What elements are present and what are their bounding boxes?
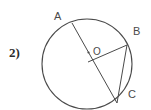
circle-geometry-diagram: O A B C	[0, 0, 151, 110]
vertex-label-b: B	[133, 25, 140, 37]
vertex-label-c: C	[128, 88, 136, 100]
chord-b-c	[117, 45, 127, 103]
vertex-label-a: A	[54, 10, 62, 22]
center-point-dot	[87, 51, 89, 53]
center-label-o: O	[93, 46, 101, 57]
geometry-figure-container: 2) O A B C	[0, 0, 151, 110]
chord-a-c	[72, 23, 117, 103]
